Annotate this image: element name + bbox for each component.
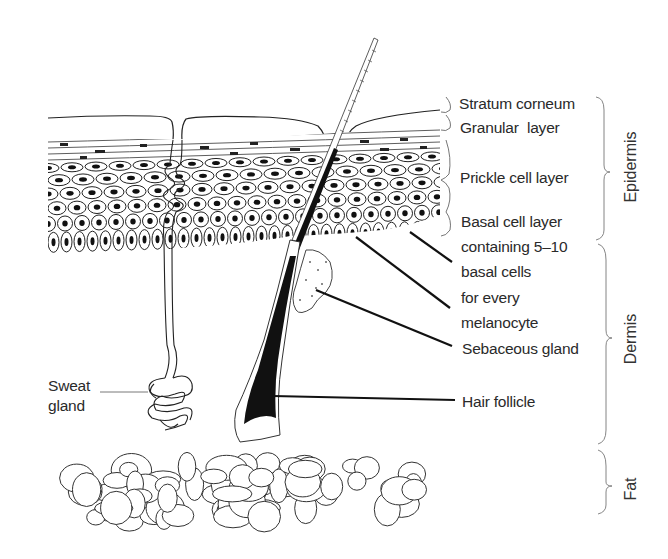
label-for-every: for every <box>461 288 520 307</box>
sebaceous-gland <box>293 250 332 313</box>
label-dermis: Dermis <box>622 309 640 369</box>
hair-follicle <box>235 240 300 442</box>
epidermis-cells <box>37 125 454 265</box>
label-granular-layer: Granular layer <box>460 118 560 137</box>
label-fat: Fat <box>622 469 640 509</box>
region-braces <box>596 97 612 514</box>
layer-braces <box>441 97 451 236</box>
label-gland: gland <box>48 396 85 415</box>
label-sweat: Sweat <box>48 376 90 395</box>
label-basal-containing: containing 5–10 <box>461 237 567 256</box>
label-stratum-corneum: Stratum corneum <box>459 94 575 113</box>
label-melanocyte: melanocyte <box>461 313 538 332</box>
label-basal-cells: basal cells <box>461 262 531 281</box>
label-basal-cell-layer: Basal cell layer <box>461 212 562 231</box>
label-prickle-cell-layer: Prickle cell layer <box>460 168 568 187</box>
skin-cross-section-diagram <box>0 0 668 559</box>
label-epidermis: Epidermis <box>622 127 640 207</box>
label-sebaceous-gland: Sebaceous gland <box>462 339 579 358</box>
sweat-gland-coil <box>148 376 192 430</box>
fat-cells <box>60 452 427 531</box>
label-hair-follicle: Hair follicle <box>462 392 535 411</box>
pointer-lines <box>273 232 455 400</box>
